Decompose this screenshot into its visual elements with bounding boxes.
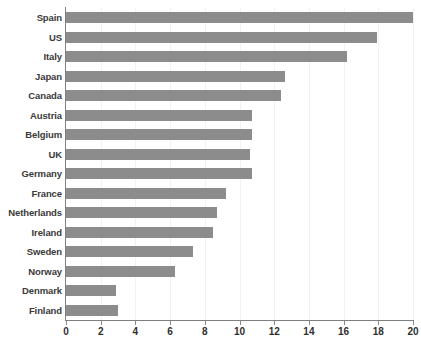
bar-row xyxy=(66,47,413,67)
bar xyxy=(66,168,252,179)
y-axis-tick-label: Denmark xyxy=(0,285,62,296)
y-axis-tick-label: Netherlands xyxy=(0,207,62,218)
y-axis-tick-label: Belgium xyxy=(0,129,62,140)
y-axis-labels: SpainUSItalyJapanCanadaAustriaBelgiumUKG… xyxy=(0,8,62,320)
bar-row xyxy=(66,67,413,87)
x-axis-tick-mark xyxy=(274,321,275,325)
x-axis-tick-label: 6 xyxy=(158,326,182,337)
bar-row xyxy=(66,281,413,301)
y-axis-tick-label: US xyxy=(0,32,62,43)
x-axis-tick-label: 20 xyxy=(401,326,421,337)
x-axis-tick-label: 8 xyxy=(193,326,217,337)
x-axis-tick-label: 16 xyxy=(332,326,356,337)
bar xyxy=(66,32,377,43)
bar-row xyxy=(66,8,413,28)
bar xyxy=(66,71,285,82)
x-axis-tick-mark xyxy=(309,321,310,325)
x-axis-tick-mark xyxy=(413,321,414,325)
y-axis-tick-label: Finland xyxy=(0,305,62,316)
bar-row xyxy=(66,106,413,126)
y-axis-tick-label: UK xyxy=(0,149,62,160)
bar-row xyxy=(66,223,413,243)
bar xyxy=(66,51,347,62)
x-axis-tick-label: 4 xyxy=(123,326,147,337)
bar xyxy=(66,246,193,257)
bar xyxy=(66,305,118,316)
bar xyxy=(66,149,250,160)
bar-row xyxy=(66,203,413,223)
y-axis-tick-label: Austria xyxy=(0,110,62,121)
y-axis-tick-label: Canada xyxy=(0,90,62,101)
x-axis-tick-mark xyxy=(170,321,171,325)
x-axis-tick-label: 10 xyxy=(228,326,252,337)
x-axis-tick-label: 14 xyxy=(297,326,321,337)
x-axis-tick-mark xyxy=(101,321,102,325)
y-axis-tick-label: Italy xyxy=(0,51,62,62)
y-axis-tick-label: Norway xyxy=(0,266,62,277)
bar-row xyxy=(66,28,413,48)
bar-row xyxy=(66,164,413,184)
x-axis-tick-mark xyxy=(66,321,67,325)
y-axis-tick-label: France xyxy=(0,188,62,199)
bar xyxy=(66,207,217,218)
y-axis-tick-label: Spain xyxy=(0,12,62,23)
bar-row xyxy=(66,125,413,145)
bar xyxy=(66,266,175,277)
plot-area xyxy=(66,8,413,320)
x-axis-tick-mark xyxy=(205,321,206,325)
x-axis-tick-mark xyxy=(344,321,345,325)
x-axis-tick-label: 0 xyxy=(54,326,78,337)
bar-row xyxy=(66,301,413,321)
bar-chart: SpainUSItalyJapanCanadaAustriaBelgiumUKG… xyxy=(0,0,421,345)
bar xyxy=(66,129,252,140)
x-axis-tick-mark xyxy=(378,321,379,325)
bar xyxy=(66,12,413,23)
y-axis-tick-label: Japan xyxy=(0,71,62,82)
bar-row xyxy=(66,184,413,204)
x-axis-tick-label: 12 xyxy=(262,326,286,337)
bar-row xyxy=(66,242,413,262)
bar xyxy=(66,110,252,121)
bar xyxy=(66,227,213,238)
gridline xyxy=(413,8,414,320)
bar xyxy=(66,188,226,199)
x-axis-tick-label: 2 xyxy=(89,326,113,337)
bar-row xyxy=(66,145,413,165)
x-axis-tick-mark xyxy=(240,321,241,325)
y-axis-tick-label: Germany xyxy=(0,168,62,179)
y-axis-tick-label: Sweden xyxy=(0,246,62,257)
bar xyxy=(66,285,116,296)
x-axis-tick-mark xyxy=(135,321,136,325)
y-axis-tick-label: Ireland xyxy=(0,227,62,238)
bar-row xyxy=(66,86,413,106)
bar-row xyxy=(66,262,413,282)
x-axis-tick-label: 18 xyxy=(366,326,390,337)
bar xyxy=(66,90,281,101)
